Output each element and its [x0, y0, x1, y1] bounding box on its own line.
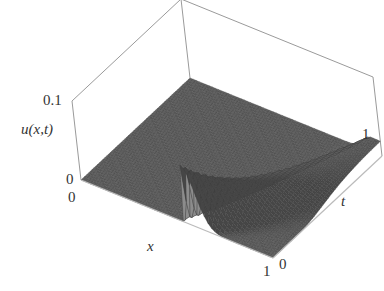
surface-mesh	[81, 78, 380, 258]
t-tick-end: 1	[362, 127, 370, 142]
u-tick-bottom: 0	[66, 172, 74, 187]
u-axis-label: u(x,t)	[21, 122, 53, 137]
u-tick-top: 0.1	[43, 93, 62, 108]
surface-plot	[0, 0, 384, 291]
t-axis-label: t	[341, 194, 345, 209]
box-edge	[72, 101, 81, 180]
box-edge	[72, 0, 181, 101]
t-tick-start: 0	[279, 257, 287, 272]
x-axis-label: x	[147, 239, 154, 254]
box-edge	[181, 0, 190, 78]
x-tick-start: 0	[68, 190, 76, 205]
x-tick-end: 1	[263, 264, 271, 279]
box-edge	[181, 0, 373, 77]
